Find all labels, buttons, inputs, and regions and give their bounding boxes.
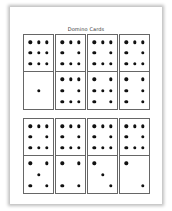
pip-dot [29, 162, 32, 165]
pip-dot [93, 146, 96, 149]
domino-card [23, 34, 54, 110]
pip-dot [61, 78, 64, 81]
pip-dot [125, 100, 128, 103]
pip-dot [29, 146, 32, 149]
pip-dot [61, 146, 64, 149]
pip-dot [77, 40, 80, 43]
pip-dot [101, 146, 104, 149]
domino-half-bottom [56, 156, 85, 193]
pip-dot [69, 62, 72, 65]
pip-dot [29, 51, 32, 54]
domino-half-bottom [88, 72, 117, 109]
pip-dot [45, 124, 48, 127]
pip-dot [133, 62, 136, 65]
pip-dot [77, 184, 80, 187]
pip-dot [77, 89, 80, 92]
pip-dot [93, 40, 96, 43]
domino-card [87, 34, 118, 110]
pip-dot [61, 124, 64, 127]
pip-dot [37, 40, 40, 43]
pip-dot [45, 40, 48, 43]
pip-dot [37, 62, 40, 65]
pip-dot [77, 78, 80, 81]
domino-half-bottom [88, 156, 117, 193]
pip-dot [125, 162, 128, 165]
pip-dot [77, 62, 80, 65]
pip-dot [37, 89, 40, 92]
domino-half-bottom [120, 72, 149, 109]
pip-dot [45, 62, 48, 65]
pip-dot [45, 51, 48, 54]
pip-dot [141, 40, 144, 43]
domino-half-bottom [56, 72, 85, 109]
pip-dot [109, 78, 112, 81]
pip-dot [101, 124, 104, 127]
domino-half-bottom [120, 156, 149, 193]
pip-dot [45, 162, 48, 165]
domino-half-bottom [24, 72, 53, 109]
pip-dot [37, 124, 40, 127]
pip-dot [29, 40, 32, 43]
pip-dot [29, 124, 32, 127]
pip-dot [37, 173, 40, 176]
domino-half-top [88, 119, 117, 156]
pip-dot [29, 184, 32, 187]
pip-dot [93, 162, 96, 165]
pip-dot [29, 62, 32, 65]
pip-dot [77, 100, 80, 103]
pip-dot [29, 135, 32, 138]
worksheet-page: Domino Cards [10, 7, 162, 204]
pip-dot [61, 62, 64, 65]
pip-dot [141, 78, 144, 81]
domino-card [55, 118, 86, 194]
pip-dot [37, 51, 40, 54]
pip-dot [133, 146, 136, 149]
pip-dot [93, 100, 96, 103]
pip-dot [45, 146, 48, 149]
pip-dot [93, 51, 96, 54]
domino-half-top [56, 119, 85, 156]
domino-row-1 [23, 34, 150, 110]
pip-dot [141, 135, 144, 138]
page-title: Domino Cards [10, 26, 162, 32]
domino-card [119, 118, 150, 194]
pip-dot [93, 135, 96, 138]
domino-card [119, 34, 150, 110]
pip-dot [109, 146, 112, 149]
pip-dot [109, 62, 112, 65]
pip-dot [141, 124, 144, 127]
pip-dot [125, 146, 128, 149]
domino-half-top [120, 35, 149, 72]
pip-dot [141, 51, 144, 54]
pip-dot [101, 40, 104, 43]
pip-dot [101, 173, 104, 176]
domino-half-top [88, 35, 117, 72]
pip-dot [61, 184, 64, 187]
pip-dot [37, 146, 40, 149]
pip-dot [69, 100, 72, 103]
pip-dot [125, 135, 128, 138]
pip-dot [101, 89, 104, 92]
domino-half-top [120, 119, 149, 156]
domino-card [87, 118, 118, 194]
pip-dot [77, 162, 80, 165]
pip-dot [69, 124, 72, 127]
pip-dot [69, 146, 72, 149]
pip-dot [101, 62, 104, 65]
pip-dot [77, 124, 80, 127]
domino-half-bottom [24, 156, 53, 193]
pip-dot [61, 135, 64, 138]
pip-dot [45, 135, 48, 138]
pip-dot [69, 40, 72, 43]
pip-dot [109, 40, 112, 43]
pip-dot [109, 184, 112, 187]
pip-dot [69, 78, 72, 81]
pip-dot [125, 89, 128, 92]
domino-row-2 [23, 118, 150, 194]
pip-dot [125, 40, 128, 43]
pip-dot [93, 78, 96, 81]
pip-dot [141, 89, 144, 92]
pip-dot [93, 89, 96, 92]
pip-dot [141, 146, 144, 149]
pip-dot [133, 124, 136, 127]
